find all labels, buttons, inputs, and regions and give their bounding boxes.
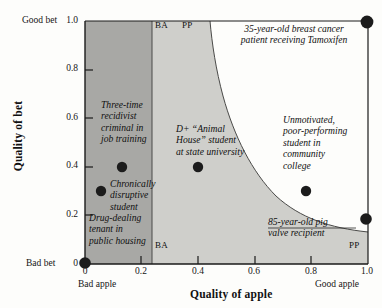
annotation-drug-dealing-tenant: Drug-dealing tenant in public housing bbox=[89, 212, 155, 246]
data-point-animal-house-student[interactable] bbox=[193, 162, 203, 172]
data-point-pig-valve-recipient[interactable] bbox=[360, 213, 372, 225]
data-point-unmotivated-student[interactable] bbox=[301, 186, 311, 196]
annotation-animal-house-student: D+ “Animal House” student at state unive… bbox=[176, 123, 266, 157]
chart-container: Quality of bet Quality of apple Good bet… bbox=[0, 0, 382, 308]
region-tag-ba-bottom: BA bbox=[155, 240, 168, 250]
annotation-three-time-recidivist: Three-time recidivist criminal in job tr… bbox=[101, 99, 161, 145]
data-point-three-time-recidivist[interactable] bbox=[117, 162, 127, 172]
annotation-tamoxifen-patient: 35-year-old breast cancer patient receiv… bbox=[224, 23, 364, 46]
data-point-chronically-disruptive[interactable] bbox=[96, 186, 106, 196]
annotation-chronically-disruptive: Chronically disruptive student bbox=[110, 178, 168, 212]
annotation-unmotivated-student: Unmotivated, poor-performing student in … bbox=[283, 114, 363, 171]
region-tag-pp-top: PP bbox=[182, 20, 193, 30]
region-tag-pp-bottom: PP bbox=[349, 240, 360, 250]
annotation-pig-valve-recipient: 85-year-old pig valve recipient bbox=[268, 216, 358, 239]
data-point-origin[interactable] bbox=[79, 257, 91, 269]
region-tag-ba-top: BA bbox=[155, 20, 168, 30]
